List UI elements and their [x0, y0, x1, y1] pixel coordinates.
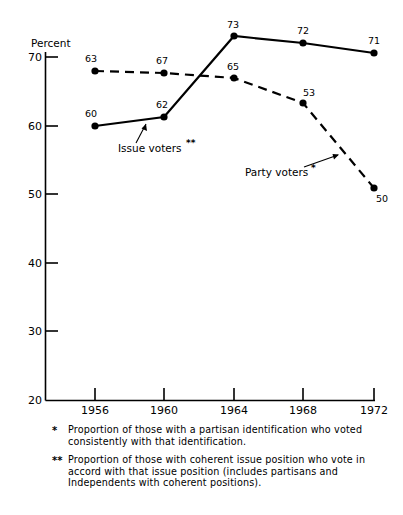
x-tick-label-1964: 1964: [220, 404, 248, 417]
data-label-party-1960: 67: [156, 55, 168, 66]
data-point-issue-1968: [299, 39, 306, 46]
party-voters-arrowhead: [333, 154, 340, 160]
footnote-row-2: ** Proportion of those with coherent iss…: [52, 454, 400, 489]
x-tick-label-1972: 1972: [360, 404, 388, 417]
issue-voters-annotation-label: Issue voters: [118, 142, 182, 154]
footnote-mark-double-asterisk: **: [52, 454, 68, 467]
data-label-issue-1972: 71: [368, 35, 380, 46]
data-point-issue-1956: [91, 122, 98, 129]
issue-voters-footnote-mark: **: [186, 138, 196, 148]
data-point-issue-1972: [370, 49, 377, 56]
data-point-issue-1964: [230, 32, 237, 39]
data-point-issue-1960: [160, 113, 167, 120]
y-tick-label-70: 70: [28, 51, 42, 64]
y-tick-label-40: 40: [28, 257, 42, 270]
footnotes-block: * Proportion of those with a partisan id…: [52, 424, 400, 496]
x-tick-label-1960: 1960: [150, 404, 178, 417]
line-chart-plot: 70 60 50 40 30 20 Percent 1956 1960 1964…: [0, 0, 403, 430]
y-tick-label-50: 50: [28, 188, 42, 201]
data-point-party-1972: [370, 184, 377, 191]
data-point-party-1956: [91, 67, 98, 74]
party-voters-leader-line: [304, 155, 338, 167]
data-label-party-1964: 65: [227, 61, 239, 72]
data-point-party-1964: [230, 74, 237, 81]
x-tick-label-1956: 1956: [81, 404, 109, 417]
footnote-row-1: * Proportion of those with a partisan id…: [52, 424, 400, 447]
series-line-party-voters: [95, 71, 374, 188]
data-point-party-1968: [299, 99, 306, 106]
data-label-issue-1956: 60: [85, 108, 97, 119]
data-label-issue-1968: 72: [297, 25, 309, 36]
data-label-issue-1964: 73: [227, 19, 239, 30]
data-label-party-1972: 50: [376, 193, 388, 204]
chart-figure: 70 60 50 40 30 20 Percent 1956 1960 1964…: [0, 0, 403, 515]
data-label-issue-1960: 62: [156, 99, 168, 110]
footnote-mark-single-asterisk: *: [52, 424, 68, 437]
y-axis-title: Percent: [31, 37, 71, 49]
data-label-party-1968: 53: [303, 87, 315, 98]
party-voters-annotation-label: Party voters: [245, 166, 308, 178]
party-voters-footnote-mark: *: [311, 163, 316, 173]
data-label-party-1956: 63: [85, 53, 97, 64]
y-tick-label-30: 30: [28, 325, 42, 338]
data-point-party-1960: [160, 69, 167, 76]
footnote-text-2: Proportion of those with coherent issue …: [68, 454, 365, 489]
y-tick-label-20: 20: [28, 394, 42, 407]
footnote-text-1: Proportion of those with a partisan iden…: [68, 424, 362, 447]
x-tick-label-1968: 1968: [289, 404, 317, 417]
y-tick-label-60: 60: [28, 120, 42, 133]
